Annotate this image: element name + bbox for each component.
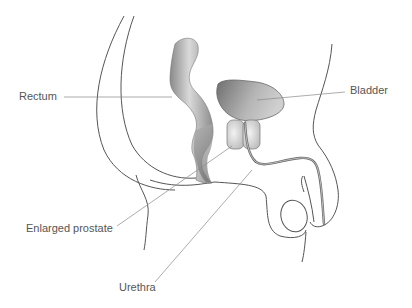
pelvis-illustration: [0, 0, 412, 308]
leader-urethra: [155, 170, 252, 282]
label-bladder: Bladder: [350, 85, 388, 96]
anatomy-diagram: Rectum Bladder Enlarged prostate Urethra: [0, 0, 412, 308]
leader-prostate: [117, 146, 232, 226]
label-enlarged-prostate: Enlarged prostate: [26, 223, 113, 234]
label-urethra: Urethra: [119, 282, 156, 293]
label-rectum: Rectum: [19, 91, 57, 102]
body-outline: [97, 16, 339, 262]
enlarged-prostate: [227, 120, 260, 149]
bladder: [217, 80, 284, 121]
